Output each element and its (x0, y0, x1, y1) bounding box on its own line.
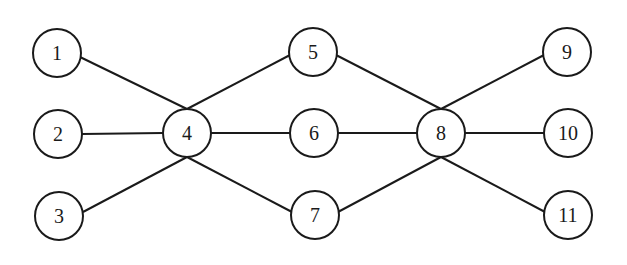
edge-5-8 (336, 55, 441, 109)
graph-diagram: 1234567891011 (0, 0, 627, 265)
node-10: 10 (544, 109, 592, 157)
node-4: 4 (163, 109, 211, 157)
node-11: 11 (544, 191, 592, 239)
node-8: 8 (417, 109, 465, 157)
node-label: 10 (558, 122, 578, 144)
node-3: 3 (35, 192, 83, 240)
node-5: 5 (289, 28, 337, 76)
node-1: 1 (33, 29, 81, 77)
edge-8-9 (441, 55, 544, 109)
node-label: 9 (562, 41, 572, 63)
node-label: 4 (182, 122, 192, 144)
edge-1-4 (80, 57, 187, 109)
edge-3-4 (83, 157, 187, 212)
node-label: 6 (309, 122, 319, 144)
edge-4-5 (187, 55, 290, 109)
node-label: 2 (53, 123, 63, 145)
node-label: 11 (558, 204, 577, 226)
node-7: 7 (291, 191, 339, 239)
node-2: 2 (34, 110, 82, 158)
node-label: 5 (308, 41, 318, 63)
node-label: 8 (436, 122, 446, 144)
edge-4-7 (187, 157, 292, 212)
node-label: 7 (310, 204, 320, 226)
node-label: 3 (54, 205, 64, 227)
edge-8-11 (441, 157, 545, 212)
node-6: 6 (290, 109, 338, 157)
edge-2-4 (82, 133, 163, 134)
edge-7-8 (338, 157, 441, 212)
node-9: 9 (543, 28, 591, 76)
node-label: 1 (52, 42, 62, 64)
